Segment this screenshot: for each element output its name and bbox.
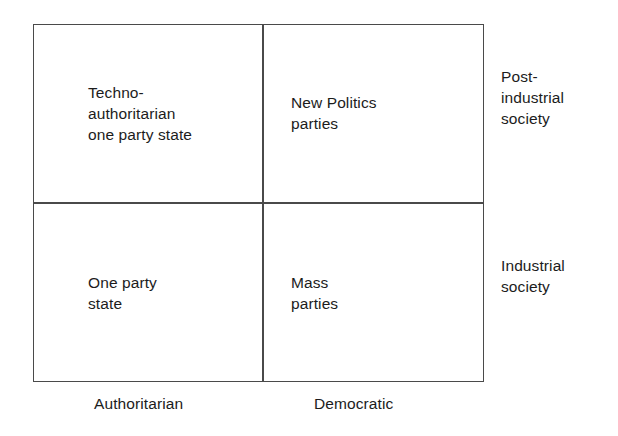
quadrant-top-left-label: Techno- authoritarian one party state	[88, 82, 262, 145]
row-label-post-industrial-society: Post- industrial society	[501, 66, 613, 129]
row-label-industrial-society: Industrial society	[501, 255, 613, 297]
quadrant-top-right: New Politics parties	[264, 24, 484, 202]
column-label-authoritarian: Authoritarian	[94, 393, 183, 414]
quadrant-top-right-label: New Politics parties	[291, 92, 484, 134]
quadrant-top-left: Techno- authoritarian one party state	[33, 24, 262, 202]
quadrant-bottom-right-label: Mass parties	[291, 272, 484, 314]
column-label-democratic: Democratic	[314, 393, 393, 414]
quadrant-bottom-left: One party state	[33, 204, 262, 382]
quadrant-bottom-left-label: One party state	[88, 272, 262, 314]
quadrant-bottom-right: Mass parties	[264, 204, 484, 382]
two-by-two-matrix-diagram: Techno- authoritarian one party state Ne…	[0, 0, 618, 436]
